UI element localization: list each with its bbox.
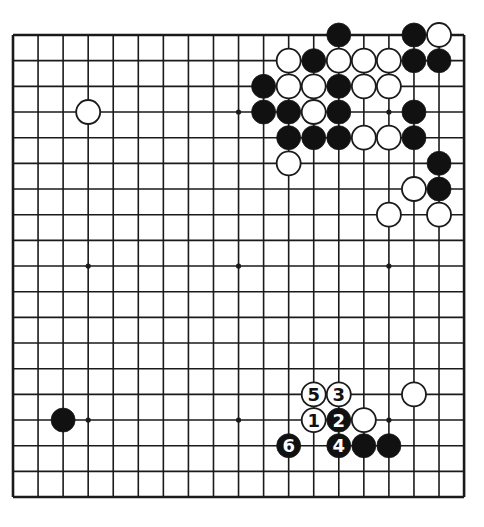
black-stone — [252, 100, 276, 124]
move-number-label: 1 — [307, 410, 320, 431]
white-stone — [377, 203, 401, 227]
white-stone-circle — [352, 126, 376, 150]
black-stone — [327, 100, 351, 124]
star-point — [86, 417, 91, 422]
star-point — [386, 263, 391, 268]
black-stone — [327, 23, 351, 47]
white-stone — [76, 100, 100, 124]
go-board: 531264 — [0, 0, 484, 527]
black-stone-circle — [427, 177, 451, 201]
move-number-label: 3 — [333, 384, 346, 405]
white-stone — [377, 74, 401, 98]
white-stone-circle — [427, 23, 451, 47]
black-stone-circle — [51, 408, 75, 432]
white-stone — [427, 203, 451, 227]
black-stone — [302, 126, 326, 150]
star-point — [236, 109, 241, 114]
white-stone-circle — [377, 74, 401, 98]
white-stone — [352, 74, 376, 98]
white-stone — [427, 23, 451, 47]
white-stone-circle — [76, 100, 100, 124]
black-stone — [51, 408, 75, 432]
board-background — [0, 0, 484, 527]
black-stone-circle — [327, 126, 351, 150]
numbered-white-stone: 5 — [302, 382, 326, 406]
black-stone-circle — [277, 100, 301, 124]
black-stone — [402, 49, 426, 73]
black-stone-circle — [327, 23, 351, 47]
white-stone-circle — [402, 382, 426, 406]
black-stone-circle — [252, 74, 276, 98]
move-number-label: 5 — [307, 384, 320, 405]
white-stone-circle — [277, 49, 301, 73]
white-stone — [327, 49, 351, 73]
white-stone — [352, 49, 376, 73]
white-stone-circle — [402, 177, 426, 201]
black-stone-circle — [427, 151, 451, 175]
white-stone-circle — [377, 203, 401, 227]
black-stone-circle — [377, 434, 401, 458]
white-stone-circle — [302, 74, 326, 98]
move-number-label: 4 — [333, 435, 346, 456]
white-stone — [402, 382, 426, 406]
black-stone — [252, 74, 276, 98]
black-stone-circle — [402, 100, 426, 124]
white-stone-circle — [352, 74, 376, 98]
black-stone-circle — [277, 126, 301, 150]
move-number-label: 6 — [282, 435, 295, 456]
white-stone — [352, 408, 376, 432]
black-stone — [352, 434, 376, 458]
black-stone — [402, 100, 426, 124]
white-stone-circle — [377, 126, 401, 150]
numbered-white-stone: 1 — [302, 408, 326, 432]
black-stone-circle — [402, 126, 426, 150]
numbered-black-stone: 6 — [277, 434, 301, 458]
black-stone — [427, 151, 451, 175]
star-point — [236, 263, 241, 268]
star-point — [386, 109, 391, 114]
black-stone — [427, 177, 451, 201]
black-stone-circle — [327, 100, 351, 124]
black-stone — [277, 126, 301, 150]
white-stone — [352, 126, 376, 150]
black-stone — [427, 49, 451, 73]
star-point — [86, 263, 91, 268]
black-stone-circle — [302, 49, 326, 73]
white-stone — [302, 100, 326, 124]
white-stone-circle — [302, 100, 326, 124]
numbered-black-stone: 2 — [327, 408, 351, 432]
black-stone — [377, 434, 401, 458]
black-stone-circle — [402, 49, 426, 73]
white-stone — [377, 49, 401, 73]
black-stone-circle — [402, 23, 426, 47]
white-stone — [377, 126, 401, 150]
white-stone-circle — [352, 408, 376, 432]
black-stone-circle — [327, 74, 351, 98]
white-stone-circle — [377, 49, 401, 73]
black-stone — [327, 126, 351, 150]
white-stone-circle — [352, 49, 376, 73]
white-stone-circle — [277, 74, 301, 98]
black-stone-circle — [252, 100, 276, 124]
white-stone-circle — [427, 203, 451, 227]
black-stone — [327, 74, 351, 98]
white-stone — [277, 74, 301, 98]
white-stone — [402, 177, 426, 201]
white-stone — [277, 49, 301, 73]
star-point — [386, 417, 391, 422]
black-stone — [302, 49, 326, 73]
star-point — [236, 417, 241, 422]
numbered-white-stone: 3 — [327, 382, 351, 406]
black-stone — [277, 100, 301, 124]
white-stone-circle — [277, 151, 301, 175]
numbered-black-stone: 4 — [327, 434, 351, 458]
move-number-label: 2 — [333, 410, 346, 431]
white-stone-circle — [327, 49, 351, 73]
white-stone — [302, 74, 326, 98]
black-stone-circle — [352, 434, 376, 458]
black-stone-circle — [427, 49, 451, 73]
black-stone — [402, 126, 426, 150]
black-stone-circle — [302, 126, 326, 150]
white-stone — [277, 151, 301, 175]
black-stone — [402, 23, 426, 47]
